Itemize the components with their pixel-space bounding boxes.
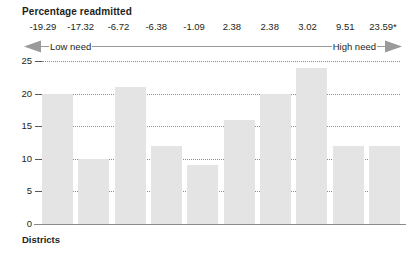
y-tick: 25 [0, 55, 42, 67]
top-axis-value: 23.59* [364, 20, 402, 33]
top-axis-value: 2.38 [213, 20, 251, 33]
bar[interactable] [224, 120, 255, 224]
bar[interactable] [151, 146, 182, 224]
chart-figure: Percentage readmitted -19.29 -17.32 -6.7… [0, 0, 416, 256]
plot-area [42, 61, 400, 224]
tick-mark-icon [35, 126, 42, 127]
y-tick-label: 15 [21, 120, 32, 132]
bar[interactable] [296, 68, 327, 224]
chart-title: Percentage readmitted [22, 6, 132, 17]
top-axis-values: -19.29 -17.32 -6.72 -6.38 -1.09 2.38 2.3… [24, 20, 402, 33]
y-tick-label: 10 [21, 153, 32, 165]
y-tick: 20 [0, 88, 42, 100]
y-axis: 25 20 15 10 5 0 [0, 55, 42, 235]
y-tick-label: 5 [27, 185, 32, 197]
y-tick-label: 20 [21, 88, 32, 100]
y-tick-label: 0 [27, 218, 32, 230]
high-need-label: High need [332, 40, 377, 53]
top-axis-value: 3.02 [289, 20, 327, 33]
low-need-label: Low need [49, 40, 92, 53]
top-axis-value: -1.09 [175, 20, 213, 33]
y-tick: 10 [0, 153, 42, 165]
tick-mark-icon [35, 61, 42, 62]
bar[interactable] [78, 159, 109, 224]
y-tick-label: 25 [21, 55, 32, 67]
top-axis-value: -6.72 [100, 20, 138, 33]
y-tick: 5 [0, 185, 42, 197]
tick-mark-icon [35, 191, 42, 192]
bar[interactable] [187, 165, 218, 224]
bar[interactable] [260, 94, 291, 224]
y-tick: 15 [0, 120, 42, 132]
need-scale-arrow: Low need High need [22, 38, 404, 55]
x-axis-line [34, 224, 406, 225]
x-axis-label: Districts [22, 234, 60, 245]
bar[interactable] [369, 146, 400, 224]
bar[interactable] [333, 146, 364, 224]
top-axis-value: -17.32 [62, 20, 100, 33]
tick-mark-icon [35, 94, 42, 95]
top-axis-value: -19.29 [24, 20, 62, 33]
top-axis-value: 9.51 [326, 20, 364, 33]
tick-mark-icon [35, 159, 42, 160]
top-axis-value: -6.38 [137, 20, 175, 33]
bar[interactable] [42, 94, 73, 224]
bar[interactable] [115, 87, 146, 224]
bar-series [42, 61, 400, 224]
top-axis-value: 2.38 [251, 20, 289, 33]
